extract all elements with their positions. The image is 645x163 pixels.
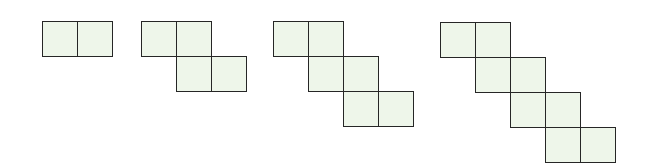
unit-square (545, 92, 581, 128)
unit-square (308, 56, 344, 92)
unit-square (77, 21, 113, 57)
unit-square (273, 21, 309, 57)
unit-square (510, 92, 546, 128)
unit-square (475, 22, 511, 58)
unit-square (510, 57, 546, 93)
unit-square (343, 91, 379, 127)
unit-square (545, 127, 581, 163)
unit-square (580, 127, 616, 163)
unit-square (475, 57, 511, 93)
unit-square (42, 21, 78, 57)
unit-square (141, 21, 177, 57)
unit-square (378, 91, 414, 127)
unit-square (176, 56, 212, 92)
pattern-diagram (0, 0, 645, 163)
unit-square (211, 56, 247, 92)
unit-square (440, 22, 476, 58)
unit-square (176, 21, 212, 57)
unit-square (308, 21, 344, 57)
unit-square (343, 56, 379, 92)
